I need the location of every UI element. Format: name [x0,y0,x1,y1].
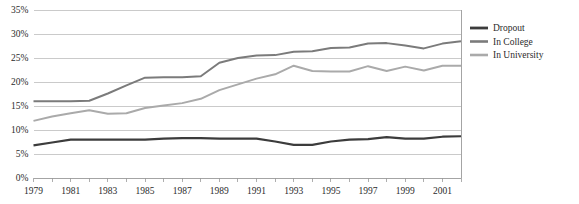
y-axis-tick-label: 0% [16,173,29,183]
y-axis-tick-labels: 0%5%10%15%20%25%30%35% [11,5,29,183]
x-axis-tick-label: 2001 [433,186,452,196]
x-axis-tick-label: 1979 [24,186,43,196]
x-axis-tick-label: 1989 [210,186,229,196]
x-axis-tick-label: 1981 [61,186,80,196]
y-axis-tick-label: 25% [11,53,29,63]
line-chart: 0%5%10%15%20%25%30%35% 19791981198319851… [0,0,579,204]
x-axis-tickmarks [34,178,462,182]
y-axis-tick-label: 15% [11,101,29,111]
legend-label-in-college: In College [493,37,533,47]
series-line-in-college [34,41,462,101]
y-axis-tick-label: 30% [11,29,29,39]
x-axis-tick-labels: 1979198119831985198719891991199319951997… [24,186,452,196]
y-axis-tick-label: 35% [11,5,29,15]
legend-label-in-university: In University [493,50,544,60]
series-line-in-university [34,66,462,121]
y-axis-tick-label: 5% [16,149,29,159]
chart-legend: DropoutIn CollegeIn University [470,23,544,60]
series-line-dropout [34,136,462,145]
gridlines [34,10,462,178]
x-axis-tick-label: 1991 [247,186,266,196]
x-axis-tick-label: 1993 [284,186,303,196]
x-axis-tick-label: 1983 [98,186,117,196]
x-axis-tick-label: 1985 [136,186,155,196]
legend-label-dropout: Dropout [493,23,525,33]
chart-canvas: 0%5%10%15%20%25%30%35% 19791981198319851… [0,0,579,204]
x-axis-tick-label: 1995 [321,186,340,196]
y-axis-tick-label: 10% [11,125,29,135]
y-axis-tick-label: 20% [11,77,29,87]
x-axis-tick-label: 1999 [396,186,415,196]
x-axis-tick-label: 1987 [173,186,192,196]
x-axis-tick-label: 1997 [359,186,378,196]
